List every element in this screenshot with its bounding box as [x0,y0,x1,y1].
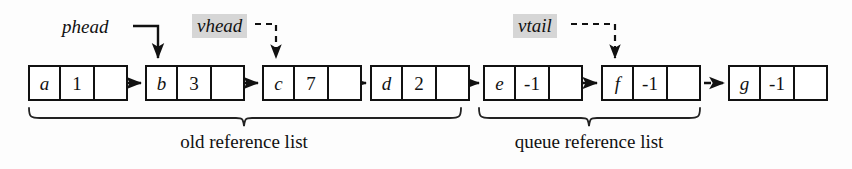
node-a-value: 1 [61,67,95,99]
node-f-value: -1 [634,67,668,99]
node-b-value: 3 [178,67,212,99]
node-f-next-pointer [668,67,699,99]
node-d-value: 2 [403,67,437,99]
list-node-g[interactable]: g -1 [728,65,828,101]
caption-old-reference-list: old reference list [144,132,344,151]
node-e-next-pointer [550,67,581,99]
node-e-key: e [485,67,516,99]
node-c-key: c [264,67,295,99]
node-g-key: g [730,67,761,99]
node-g-next-pointer [795,67,826,99]
node-d-next-pointer [437,67,468,99]
list-node-a[interactable]: a 1 [28,65,128,101]
vhead-pointer-arrow [255,24,276,58]
caption-queue-reference-list: queue reference list [479,132,699,151]
node-b-next-pointer [212,67,243,99]
pointer-label-phead[interactable]: phead [62,17,108,36]
node-f-key: f [603,67,634,99]
list-node-d[interactable]: d 2 [370,65,470,101]
list-node-f[interactable]: f -1 [601,65,701,101]
node-e-value: -1 [516,67,550,99]
node-d-key: d [372,67,403,99]
node-g-value: -1 [761,67,795,99]
node-c-next-pointer [329,67,360,99]
list-node-b[interactable]: b 3 [145,65,245,101]
phead-pointer-arrow [133,26,158,58]
pointer-label-vtail[interactable]: vtail [513,14,557,38]
node-c-value: 7 [295,67,329,99]
linked-list-diagram: a 1 b 3 c 7 d 2 e -1 f -1 g -1 phead vhe… [0,0,852,169]
node-a-next-pointer [95,67,126,99]
vtail-pointer-arrow [571,24,615,58]
list-node-e[interactable]: e -1 [483,65,583,101]
brace-queue-reference-list [479,108,700,126]
pointer-label-vhead[interactable]: vhead [192,14,247,38]
node-a-key: a [30,67,61,99]
list-node-c[interactable]: c 7 [262,65,362,101]
node-b-key: b [147,67,178,99]
brace-old-reference-list [29,108,461,126]
